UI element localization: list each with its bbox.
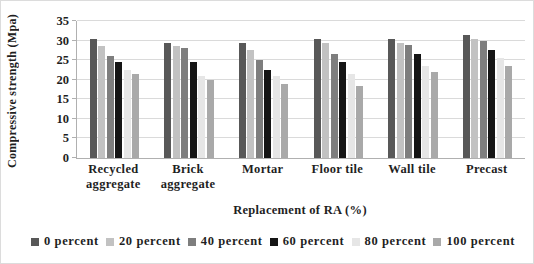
bar-recycled-aggregate-100-percent (132, 74, 139, 158)
category-label-precast: Precast (449, 162, 524, 192)
bar-floor-tile-40-percent (331, 54, 338, 158)
bar-recycled-aggregate-60-percent (115, 62, 122, 158)
bar-floor-tile-100-percent (356, 86, 363, 158)
bar-brick-aggregate-100-percent (207, 80, 214, 158)
category-label-mortar: Mortar (225, 162, 300, 192)
legend-label: 60 percent (283, 234, 345, 249)
y-tick-label-25: 25 (29, 53, 69, 67)
legend-swatch-icon (106, 238, 114, 246)
bar-floor-tile-80-percent (348, 74, 355, 158)
legend: 0 percent20 percent40 percent60 percent8… (31, 234, 515, 249)
bar-group-brick-aggregate (152, 21, 227, 158)
y-tick-label-15: 15 (29, 92, 69, 106)
bar-wall-tile-60-percent (414, 54, 421, 158)
x-axis-title: Replacement of RA (%) (76, 203, 524, 218)
bar-group-mortar (226, 21, 301, 158)
bar-brick-aggregate-0-percent (164, 43, 171, 159)
bar-mortar-20-percent (247, 50, 254, 158)
legend-item-100-percent: 100 percent (433, 234, 515, 249)
bar-precast-0-percent (463, 35, 470, 158)
category-label-floor-tile: Floor tile (300, 162, 375, 192)
y-axis-title: Compressive strength (Mpa) (5, 11, 23, 171)
bar-wall-tile-100-percent (431, 72, 438, 158)
legend-swatch-icon (352, 238, 360, 246)
bar-group-wall-tile (376, 21, 451, 158)
legend-label: 100 percent (446, 234, 515, 249)
y-tick-label-20: 20 (29, 73, 69, 87)
y-tick-label-5: 5 (29, 131, 69, 145)
legend-item-0-percent: 0 percent (31, 234, 99, 249)
bar-precast-100-percent (505, 66, 512, 158)
y-tick-label-30: 30 (29, 34, 69, 48)
bar-precast-20-percent (471, 39, 478, 158)
bar-recycled-aggregate-0-percent (90, 39, 97, 158)
category-label-recycled-aggregate: Recycledaggregate (76, 162, 151, 192)
legend-item-20-percent: 20 percent (106, 234, 181, 249)
bar-recycled-aggregate-40-percent (107, 56, 114, 158)
legend-swatch-icon (270, 238, 278, 246)
category-label-wall-tile: Wall tile (375, 162, 450, 192)
bar-recycled-aggregate-20-percent (98, 46, 105, 158)
bar-brick-aggregate-20-percent (173, 46, 180, 158)
bar-precast-40-percent (480, 41, 487, 158)
legend-swatch-icon (433, 238, 441, 246)
bar-chart-figure: Compressive strength (Mpa) 0510152025303… (1, 1, 533, 263)
y-tick-label-0: 0 (29, 151, 69, 165)
y-tick-label-10: 10 (29, 112, 69, 126)
bar-mortar-0-percent (239, 43, 246, 159)
bar-group-recycled-aggregate (77, 21, 152, 158)
bar-floor-tile-20-percent (322, 43, 329, 159)
legend-label: 0 percent (44, 234, 99, 249)
bar-brick-aggregate-60-percent (190, 62, 197, 158)
legend-item-40-percent: 40 percent (188, 234, 263, 249)
legend-label: 80 percent (365, 234, 427, 249)
bar-wall-tile-40-percent (405, 45, 412, 159)
bar-recycled-aggregate-80-percent (124, 70, 131, 158)
plot-area (76, 21, 525, 159)
bar-floor-tile-60-percent (339, 62, 346, 158)
bar-mortar-80-percent (273, 76, 280, 158)
bar-brick-aggregate-80-percent (198, 76, 205, 158)
legend-item-60-percent: 60 percent (270, 234, 345, 249)
bar-precast-80-percent (497, 58, 504, 158)
bar-wall-tile-20-percent (397, 43, 404, 159)
bar-mortar-60-percent (264, 70, 271, 158)
bar-mortar-100-percent (281, 84, 288, 158)
bar-group-floor-tile (301, 21, 376, 158)
legend-label: 20 percent (119, 234, 181, 249)
bar-wall-tile-0-percent (388, 39, 395, 158)
bar-floor-tile-0-percent (314, 39, 321, 158)
bar-groups (77, 21, 525, 158)
category-label-brick-aggregate: Brickaggregate (151, 162, 226, 192)
bar-precast-60-percent (488, 50, 495, 158)
legend-item-80-percent: 80 percent (352, 234, 427, 249)
bar-mortar-40-percent (256, 60, 263, 158)
y-tick-label-35: 35 (29, 14, 69, 28)
legend-swatch-icon (31, 238, 39, 246)
legend-swatch-icon (188, 238, 196, 246)
bar-wall-tile-80-percent (422, 66, 429, 158)
bar-brick-aggregate-40-percent (181, 48, 188, 158)
category-axis-labels: RecycledaggregateBrickaggregateMortarFlo… (76, 162, 524, 192)
legend-label: 40 percent (201, 234, 263, 249)
bar-group-precast (450, 21, 525, 158)
